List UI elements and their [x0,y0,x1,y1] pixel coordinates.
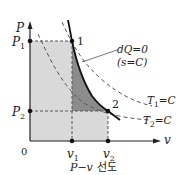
p2-tick-dot [28,109,33,114]
adiabatic-annotation-line1: dQ=0 [117,43,148,56]
adiabatic-annotation-line2: (s=C) [117,56,147,68]
v2-tick-dot [106,139,111,144]
state-2-dot [106,109,111,114]
x-axis-label: v [164,133,171,147]
p1-tick-dot [28,39,33,44]
y-axis-label: P [15,21,25,35]
y-axis-arrow-icon [28,21,33,29]
caption-text: 선도 [97,161,117,174]
v1-tick-dot [70,139,75,144]
work-area-p1-rect [30,41,72,141]
p2-label: P2 [11,105,25,121]
adiabatic-work-region [72,41,108,111]
state-1-label: 1 [77,35,84,48]
x-axis-arrow-icon [153,139,161,144]
pv-diagram: P v 0 P1 P2 v1 v2 1 2 dQ=0 (s=C) T1=C T2… [0,0,186,175]
p1-label: P1 [11,35,25,51]
origin-label: 0 [21,146,27,157]
caption-math: P−v [69,161,94,174]
state-2-label: 2 [112,98,119,111]
isotherm-t2-label: T2=C [143,114,172,129]
work-area-v1v2-rect [72,111,108,141]
annotation-leader-line [82,50,117,62]
state-1-dot [70,39,75,44]
